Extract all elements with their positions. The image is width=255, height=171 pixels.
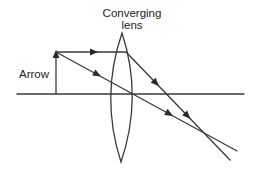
object-label: Arrow xyxy=(19,68,50,80)
lens-label-line2: lens xyxy=(121,19,142,31)
central-ray xyxy=(56,52,237,151)
lens-label-line1: Converging xyxy=(103,7,162,19)
parallel-ray xyxy=(56,52,230,160)
lens-ray-diagram: Converging lens Arrow xyxy=(0,0,255,171)
parallel-ray-arrowhead-1-icon xyxy=(90,49,98,56)
